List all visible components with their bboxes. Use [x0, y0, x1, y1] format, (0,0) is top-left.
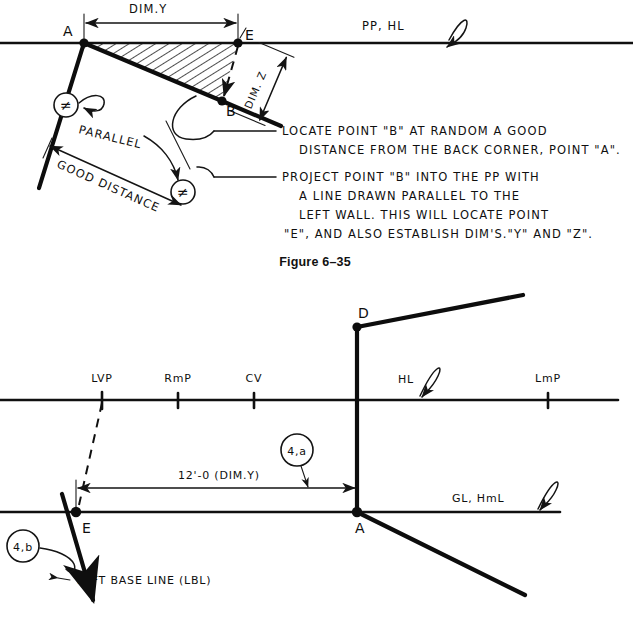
balloon-4b-label: 4,b	[13, 541, 33, 554]
dim-y-label: DIM.Y	[129, 2, 167, 16]
parallel-mark-glyph-right: ≠	[177, 184, 189, 200]
parallel-mark-right: ≠	[171, 180, 195, 204]
note-locate-b-line-2: DISTANCE FROM THE BACK CORNER, POINT "A"…	[299, 143, 621, 157]
point-d-marker	[352, 322, 361, 331]
note-project-b-line-4: "E", AND ALSO ESTABLISH DIM'S."Y" AND "Z…	[284, 227, 593, 241]
point-e-marker-top	[233, 38, 242, 47]
note-project-b-line-2: A LINE DRAWN PARALLEL TO THE	[299, 189, 520, 203]
point-a-label-bottom: A	[355, 520, 365, 536]
label-rmp: RmP	[164, 372, 191, 385]
point-a-marker-top	[79, 38, 88, 47]
label-lmp: LmP	[535, 372, 561, 385]
left-base-line-label: LEFT BASE LINE (LBL)	[77, 574, 211, 587]
point-a-label-top: A	[63, 23, 73, 39]
label-cv: CV	[246, 372, 263, 385]
balloon-4a-label: 4,a	[287, 445, 307, 458]
pp-hl-label: PP, HL	[362, 19, 405, 33]
label-lvp: LVP	[91, 372, 112, 385]
figure-caption-top: Figure 6–35	[279, 255, 351, 269]
paper-background	[0, 0, 633, 620]
note-project-b-line-1: PROJECT POINT "B" INTO THE PP WITH	[282, 170, 540, 184]
point-b-label-top: B	[226, 103, 236, 119]
point-e-label-bottom: E	[82, 520, 91, 536]
technical-drawing-canvas: PP, HL DIM.Y DIM. Z A E B	[0, 0, 633, 620]
dimension-label-bottom: 12'-0 (DIM.Y)	[178, 469, 260, 482]
note-project-b-line-3: LEFT WALL. THIS WILL LOCATE POINT	[299, 208, 549, 222]
gl-hml-label: GL, HmL	[452, 492, 504, 505]
point-d-label: D	[358, 305, 369, 321]
note-locate-b-line-1: LOCATE POINT "B" AT RANDOM A GOOD	[282, 124, 548, 138]
parallel-mark-glyph-left: ≠	[60, 97, 72, 113]
label-hl: HL	[398, 373, 414, 386]
parallel-mark-left: ≠	[54, 93, 78, 117]
point-a-marker-bottom	[352, 507, 362, 517]
point-e-marker-bottom	[71, 507, 81, 517]
point-e-label-top: E	[245, 27, 254, 43]
figure-container: PP, HL DIM.Y DIM. Z A E B	[0, 0, 633, 620]
